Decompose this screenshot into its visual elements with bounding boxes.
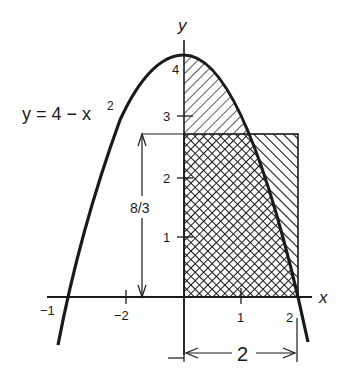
width-dimension-label: 2 [237, 343, 248, 365]
x-tick-label-2: 2 [286, 310, 293, 325]
parabola-area-diagram: y x y = 4 − x 2 4 3 2 1 −1 −2 1 2 8/3 2 [0, 0, 350, 379]
x-axis-label: x [318, 288, 328, 307]
y-tick-label-1: 1 [163, 230, 170, 245]
x-tick-label-1: 1 [237, 310, 244, 325]
height-dimension-label: 8/3 [130, 200, 150, 216]
x-tick-label-neg1: −1 [40, 303, 55, 318]
y-axis-label: y [177, 16, 188, 35]
y-tick-label-4: 4 [172, 62, 179, 77]
equation-label: y = 4 − x [22, 104, 91, 124]
y-tick-label-2: 2 [163, 171, 170, 186]
x-tick-label-neg2: −2 [114, 308, 129, 323]
y-tick-label-3: 3 [163, 109, 170, 124]
equation-exponent: 2 [107, 99, 114, 113]
width-dimension: 2 [168, 297, 297, 365]
height-dimension: 8/3 [130, 134, 184, 297]
